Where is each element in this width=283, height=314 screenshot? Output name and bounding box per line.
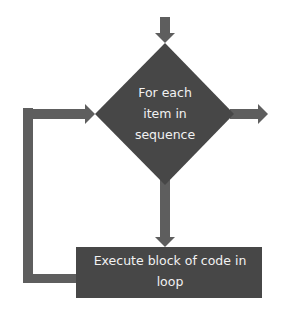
decision-label-line: For each: [113, 82, 217, 103]
process-label: Execute block of code in loop: [78, 250, 262, 292]
decision-label-line: sequence: [113, 124, 217, 145]
process-label-line: Execute block of code in: [78, 250, 262, 271]
decision-label-line: item in: [113, 103, 217, 124]
process-label-line: loop: [78, 271, 262, 292]
entry-arrow: [155, 17, 175, 43]
flowchart-diagram: For each item in sequence Execute block …: [0, 0, 283, 314]
decision-label: For each item in sequence: [113, 82, 217, 145]
exit-arrow: [230, 104, 268, 124]
decision-to-process-arrow: [155, 180, 175, 247]
